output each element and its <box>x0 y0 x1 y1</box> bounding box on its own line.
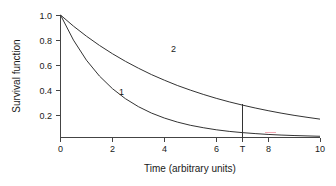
chart-canvas: 1.0 0.8 0.6 0.4 0.2 0 2 4 6 8 10 T <box>0 0 336 186</box>
survival-function-figure: 1.0 0.8 0.6 0.4 0.2 0 2 4 6 8 10 T <box>0 0 336 186</box>
x-axis-title: Time (arbitrary units) <box>144 163 236 174</box>
x-tick-label-4: 4 <box>162 144 167 154</box>
y-tick-label-0.4: 0.4 <box>39 86 52 96</box>
curve-2-label: 2 <box>171 44 176 54</box>
data-curves <box>61 15 321 136</box>
x-axis-tick-labels: 0 2 4 6 8 10 T <box>58 144 325 154</box>
x-tick-label-10: 10 <box>315 144 325 154</box>
y-tick-label-0.6: 0.6 <box>39 61 52 71</box>
x-tick-label-6: 6 <box>214 144 219 154</box>
x-axis-ticks <box>61 138 321 143</box>
x-tick-label-0: 0 <box>58 144 63 154</box>
y-tick-label-0.2: 0.2 <box>39 111 52 121</box>
x-tick-label-T: T <box>240 144 246 154</box>
y-axis-title: Survival function <box>11 39 22 112</box>
x-tick-label-2: 2 <box>110 144 115 154</box>
survival-curve-2 <box>61 15 321 119</box>
survival-curve-1 <box>61 15 321 136</box>
x-tick-label-8: 8 <box>266 144 271 154</box>
y-tick-label-1.0: 1.0 <box>39 11 52 21</box>
curve-1-label: 1 <box>119 87 124 97</box>
y-axis-ticks <box>56 16 61 116</box>
y-tick-label-0.8: 0.8 <box>39 36 52 46</box>
y-axis-tick-labels: 1.0 0.8 0.6 0.4 0.2 <box>39 11 52 121</box>
